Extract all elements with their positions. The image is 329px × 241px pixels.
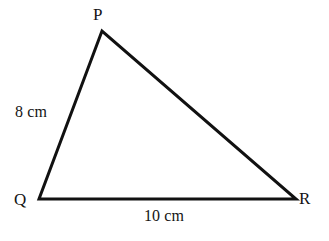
- triangle-pqr: [39, 31, 296, 199]
- vertex-label-p: P: [93, 6, 102, 23]
- triangle-svg: [0, 0, 329, 241]
- side-length-label-qr: 10 cm: [144, 208, 184, 224]
- geometry-figure: P Q R 8 cm 10 cm: [0, 0, 329, 241]
- side-length-label-pq: 8 cm: [15, 104, 47, 120]
- vertex-label-r: R: [299, 190, 310, 207]
- vertex-label-q: Q: [14, 191, 26, 208]
